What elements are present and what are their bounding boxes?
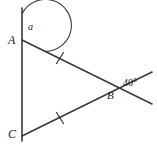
geometry-figure: A B C a 40°	[0, 0, 157, 150]
vertex-label-c: C	[8, 128, 16, 140]
angle-label-a: a	[28, 22, 33, 32]
vertex-label-a: A	[8, 34, 15, 46]
angle-label-40-degrees: 40°	[123, 78, 137, 88]
segment-ab-extended	[22, 40, 152, 104]
vertex-label-b: B	[107, 90, 114, 101]
geometry-canvas	[0, 0, 157, 150]
